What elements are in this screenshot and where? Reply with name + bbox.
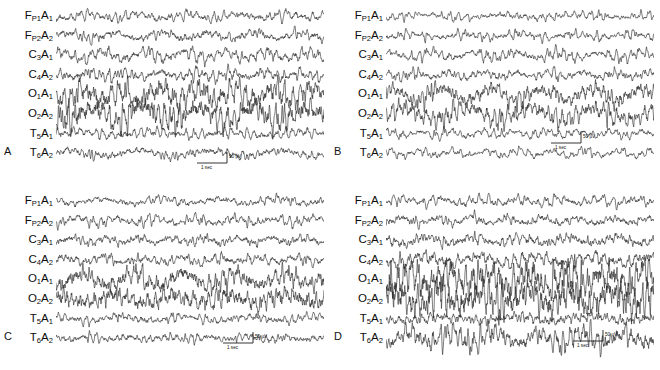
eeg-trace-c3a1	[56, 233, 324, 247]
channel-label-fp2a2: FP2A2	[355, 30, 383, 42]
eeg-trace-c4a2	[386, 66, 654, 82]
eeg-trace-o2a2	[56, 97, 324, 139]
channel-label-o1a1: O1A1	[358, 274, 383, 286]
channel-label-c3a1: C3A1	[29, 234, 53, 246]
channel-label-fp1a1: FP1A1	[25, 195, 53, 207]
eeg-trace-fp2a2	[386, 210, 654, 230]
channel-label-o2a2: O2A2	[358, 293, 383, 305]
channel-label-fp1a1: FP1A1	[355, 195, 383, 207]
eeg-trace-fp2a2	[56, 26, 324, 46]
eeg-trace-t6a2	[56, 330, 324, 345]
channel-label-o2a2: O2A2	[28, 108, 53, 120]
channel-label-o2a2: O2A2	[28, 293, 53, 305]
channel-label-column-b: FP1A1FP2A2C3A1C4A2O1A1O2A2T5A1T6A2	[330, 0, 386, 185]
channel-label-c4a2: C4A2	[29, 69, 53, 81]
eeg-trace-c3a1	[386, 44, 654, 64]
channel-label-c4a2: C4A2	[29, 254, 53, 266]
eeg-trace-t5a1	[56, 311, 324, 327]
eeg-trace-t6a2	[56, 147, 324, 162]
eeg-panel-c: FP1A1FP2A2C3A1C4A2O1A1O2A2T5A1T6A2 C 50 …	[0, 185, 330, 370]
eeg-trace-o2a2	[386, 98, 654, 132]
eeg-trace-c4a2	[56, 64, 324, 85]
channel-label-t6a2: T6A2	[360, 332, 383, 344]
eeg-panel-d: FP1A1FP2A2C3A1C4A2O1A1O2A2T5A1T6A2 D 50 …	[330, 185, 660, 370]
channel-label-c3a1: C3A1	[359, 49, 383, 61]
eeg-panel-b: FP1A1FP2A2C3A1C4A2O1A1O2A2T5A1T6A2 B 50 …	[330, 0, 660, 185]
channel-label-c3a1: C3A1	[359, 234, 383, 246]
channel-label-t5a1: T5A1	[30, 128, 53, 140]
channel-label-t6a2: T6A2	[30, 332, 53, 344]
eeg-traces-b	[386, 0, 654, 185]
eeg-trace-fp2a2	[56, 212, 324, 230]
channel-label-o1a1: O1A1	[28, 89, 53, 101]
channel-label-t5a1: T5A1	[30, 313, 53, 325]
eeg-traces-c	[56, 185, 324, 370]
panel-letter-c: C	[4, 330, 12, 342]
channel-label-t6a2: T6A2	[30, 147, 53, 159]
eeg-trace-c4a2	[56, 251, 324, 268]
eeg-trace-t5a1	[56, 126, 324, 141]
eeg-trace-o1a1	[386, 80, 654, 113]
eeg-figure: FP1A1FP2A2C3A1C4A2O1A1O2A2T5A1T6A2 A 50 …	[0, 0, 660, 370]
channel-label-o1a1: O1A1	[28, 274, 53, 286]
channel-label-column-c: FP1A1FP2A2C3A1C4A2O1A1O2A2T5A1T6A2	[0, 185, 56, 370]
panel-letter-d: D	[334, 330, 342, 342]
eeg-trace-t5a1	[386, 311, 654, 326]
eeg-panel-a: FP1A1FP2A2C3A1C4A2O1A1O2A2T5A1T6A2 A 50 …	[0, 0, 330, 185]
eeg-trace-fp1a1	[56, 8, 324, 24]
channel-label-c4a2: C4A2	[359, 69, 383, 81]
channel-label-fp2a2: FP2A2	[355, 215, 383, 227]
eeg-trace-o2a2	[56, 284, 324, 316]
eeg-trace-fp2a2	[386, 28, 654, 44]
eeg-trace-fp1a1	[386, 193, 654, 210]
channel-label-t5a1: T5A1	[360, 128, 383, 140]
eeg-trace-c4a2	[386, 250, 654, 269]
eeg-traces-d	[386, 185, 654, 370]
channel-label-fp2a2: FP2A2	[25, 30, 53, 42]
eeg-trace-fp1a1	[56, 193, 324, 207]
channel-label-fp2a2: FP2A2	[25, 215, 53, 227]
panel-letter-a: A	[4, 145, 12, 157]
eeg-trace-t6a2	[386, 146, 654, 160]
eeg-trace-c3a1	[386, 231, 654, 250]
eeg-trace-fp1a1	[386, 9, 654, 22]
eeg-trace-t5a1	[386, 127, 654, 142]
channel-label-c3a1: C3A1	[29, 49, 53, 61]
channel-label-fp1a1: FP1A1	[355, 10, 383, 22]
channel-label-t6a2: T6A2	[360, 147, 383, 159]
channel-label-o1a1: O1A1	[358, 89, 383, 101]
eeg-trace-c3a1	[56, 46, 324, 67]
channel-label-column-a: FP1A1FP2A2C3A1C4A2O1A1O2A2T5A1T6A2	[0, 0, 56, 185]
channel-label-fp1a1: FP1A1	[25, 10, 53, 22]
channel-label-t5a1: T5A1	[360, 313, 383, 325]
eeg-traces-a	[56, 0, 324, 185]
channel-label-column-d: FP1A1FP2A2C3A1C4A2O1A1O2A2T5A1T6A2	[330, 185, 386, 370]
panel-letter-b: B	[334, 145, 342, 157]
eeg-trace-o1a1	[56, 75, 324, 116]
channel-label-c4a2: C4A2	[359, 254, 383, 266]
eeg-trace-t6a2	[386, 319, 654, 357]
channel-label-o2a2: O2A2	[358, 108, 383, 120]
